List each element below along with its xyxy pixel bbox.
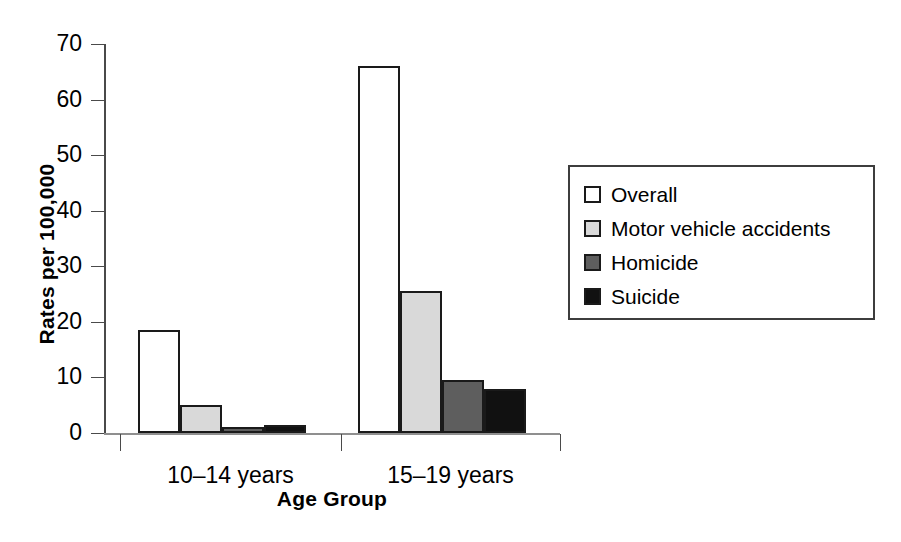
y-axis-tick: 70: [91, 44, 104, 45]
y-axis-title: Rates per 100,000: [35, 124, 59, 384]
y-axis-tick-label: 70: [56, 32, 91, 55]
x-axis-baseline: [104, 433, 560, 435]
y-axis-tick: 50: [91, 155, 104, 156]
legend-swatch-homicide: [584, 254, 601, 271]
x-axis-tick: [120, 434, 121, 451]
y-axis-tick: 10: [91, 377, 104, 378]
legend-item[interactable]: Overall: [584, 177, 873, 211]
y-axis-tick-label: 60: [56, 88, 91, 111]
legend-item-label: Overall: [611, 184, 678, 205]
y-axis-tick-label: 30: [56, 254, 91, 277]
y-axis-tick-label: 20: [56, 310, 91, 333]
legend-item[interactable]: Homicide: [584, 245, 873, 279]
bar: [442, 380, 484, 433]
chart-legend: OverallMotor vehicle accidentsHomicideSu…: [568, 165, 875, 320]
legend-swatch-overall: [584, 186, 601, 203]
legend-item[interactable]: Suicide: [584, 279, 873, 313]
y-axis-tick-label: 50: [56, 143, 91, 166]
y-axis-line: [104, 44, 106, 434]
bar: [180, 405, 222, 433]
bar: [358, 66, 400, 433]
x-axis-tick: [560, 434, 561, 451]
y-axis-tick: 40: [91, 211, 104, 212]
legend-item-label: Motor vehicle accidents: [611, 218, 830, 239]
y-axis-tick: 30: [91, 266, 104, 267]
legend-item-label: Homicide: [611, 252, 699, 273]
bar-chart-figure: Rates per 100,000 010203040506070 10–14 …: [0, 0, 901, 542]
x-axis-category-label: 15–19 years: [341, 462, 560, 488]
y-axis-tick: 0: [91, 433, 104, 434]
legend-item-label: Suicide: [611, 286, 680, 307]
bar: [264, 425, 306, 433]
bar: [222, 427, 264, 433]
y-axis-tick-label: 0: [69, 421, 91, 444]
x-axis-tick: [341, 434, 342, 451]
y-axis-tick: 20: [91, 322, 104, 323]
y-axis-tick-label: 40: [56, 199, 91, 222]
legend-swatch-motor-vehicle-accidents: [584, 220, 601, 237]
plot-area: 010203040506070 10–14 years15–19 years: [104, 44, 560, 434]
legend-swatch-suicide: [584, 288, 601, 305]
bar: [400, 291, 442, 433]
x-axis-category-label: 10–14 years: [120, 462, 341, 488]
legend-item[interactable]: Motor vehicle accidents: [584, 211, 873, 245]
y-axis-tick: 60: [91, 100, 104, 101]
bar: [484, 389, 526, 433]
x-axis-title: Age Group: [104, 487, 560, 511]
y-axis-tick-label: 10: [56, 365, 91, 388]
bar: [138, 330, 180, 433]
